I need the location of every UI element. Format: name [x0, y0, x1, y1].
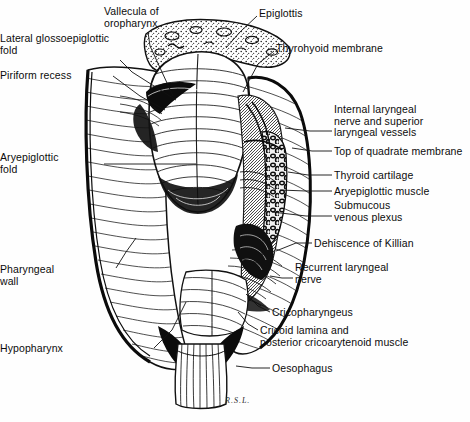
label-aryepiglottic-muscle: Aryepiglottic muscle: [334, 186, 429, 198]
label-dehiscence-of-killian: Dehiscence of Killian: [314, 238, 414, 250]
label-piriform-recess: Piriform recess: [0, 70, 4, 82]
label-top-of-quadrate-membrane: Top of quadrate membrane: [334, 146, 462, 158]
label-thyrohyoid-membrane: Thyrohyoid membrane: [276, 43, 383, 55]
label-internal-laryngeal-nerve-and-superior-laryngeal-vessels: Internal laryngeal nerve and superior la…: [334, 104, 423, 139]
label-oesophagus: Oesophagus: [272, 363, 333, 375]
label-vallecula-of-oropharynx: Vallecula of oropharynx: [104, 6, 159, 29]
label-aryepiglottic-fold: Aryepiglottic fold: [0, 152, 4, 175]
cricoid-lamina: [180, 268, 248, 338]
label-pharyngeal-wall: Pharyngeal wall: [0, 264, 4, 287]
label-thyroid-cartilage: Thyroid cartilage: [334, 170, 413, 182]
label-recurrent-laryngeal-nerve: Recurrent laryngeal nerve: [295, 262, 389, 285]
label-cricoid-lamina-and-posterior-cricoarytenoid-muscle: Cricoid lamina and posterior cricoaryten…: [260, 325, 408, 348]
label-lateral-glossoepiglottic-fold: Lateral glossoepiglottic fold: [0, 33, 4, 56]
label-hypopharynx: Hypopharynx: [0, 343, 4, 355]
label-submucous-venous-plexus: Submucous venous plexus: [334, 200, 402, 223]
artist-signature: R.S.L.: [225, 396, 250, 405]
label-cricopharyngeus: Cricopharyngeus: [272, 307, 353, 319]
figure-canvas: Vallecula of oropharynxLateral glossoepi…: [0, 0, 470, 422]
label-epiglottis: Epiglottis: [259, 8, 303, 20]
